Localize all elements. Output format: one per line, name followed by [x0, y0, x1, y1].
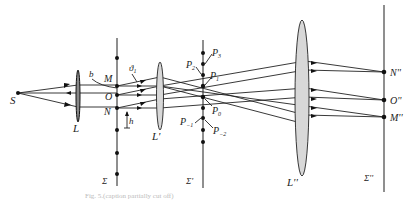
label-L-prime: L'	[151, 130, 161, 142]
label-L-double-prime: L''	[286, 176, 298, 188]
label-O: O	[105, 91, 112, 102]
label-M-double-prime: M''	[389, 112, 403, 123]
label-N-double-prime: N''	[389, 67, 402, 78]
label-L: L	[72, 122, 79, 134]
rays-L-double-prime-to-image	[305, 61, 384, 118]
label-theta1: ϑ1	[129, 63, 136, 74]
label-P0: P0	[211, 105, 221, 117]
rays-L-prime-to-L-double-prime	[160, 61, 305, 124]
rays-source-to-L	[18, 83, 78, 107]
lens-L	[76, 70, 80, 122]
label-sigma: Σ	[101, 176, 108, 186]
lens-L-double-prime	[295, 20, 309, 176]
label-h: h	[129, 116, 134, 126]
label-P-2: P−2	[212, 125, 226, 137]
source-point	[16, 91, 20, 95]
label-O-double-prime: O''	[390, 95, 402, 106]
label-P3: P3	[211, 47, 221, 59]
label-N: N	[103, 106, 112, 117]
label-sigma-prime: Σ'	[185, 176, 194, 186]
label-P2: P2	[185, 59, 195, 71]
label-sigma-double-prime: Σ''	[363, 173, 374, 183]
label-P1: P1	[209, 70, 219, 82]
rays-sigma-to-L-prime	[117, 74, 160, 110]
label-b: b	[89, 69, 94, 79]
optical-diagram: S L L' L'' M O N b ϑ1 h Σ Σ' Σ'' P3 P2 P…	[0, 0, 417, 200]
figure-caption: Fig. 5.(caption partially cut off)	[85, 192, 174, 200]
sigma-prime-points	[201, 51, 205, 144]
label-P-1: P−1	[179, 116, 193, 128]
label-M: M	[103, 73, 113, 84]
label-S: S	[10, 94, 16, 106]
lens-L-prime	[157, 62, 164, 130]
